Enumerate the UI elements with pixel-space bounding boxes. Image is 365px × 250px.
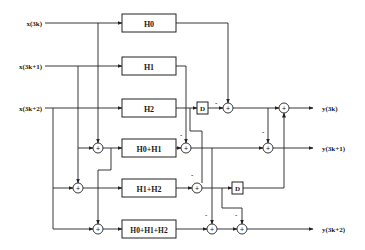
svg-text:+: + (96, 226, 100, 233)
svg-text:-: - (215, 99, 218, 106)
input-label-x3k1: x(3k+1) (19, 63, 43, 71)
svg-text:-: - (205, 211, 208, 218)
filter-h1: H1 (122, 57, 176, 75)
svg-text:-: - (191, 171, 194, 178)
svg-text:H0: H0 (144, 20, 154, 29)
input-label-x3k: x(3k) (26, 20, 42, 28)
svg-text:-: - (180, 131, 183, 138)
svg-text:H2: H2 (144, 105, 154, 114)
filter-h0-plus-h1-plus-h2: H0+H1+H2 (122, 220, 176, 238)
svg-text:+: + (195, 185, 199, 192)
filter-h2: H2 (122, 99, 176, 117)
output-label-y3k1: y(3k+1) (322, 145, 346, 153)
svg-text:D: D (235, 185, 240, 193)
output-label-y3k: y(3k) (322, 105, 338, 113)
svg-text:+: + (282, 105, 286, 112)
svg-text:H1: H1 (144, 63, 154, 72)
svg-text:+: + (226, 105, 230, 112)
filter-h1-plus-h2: H1+H2 (122, 179, 176, 197)
svg-text:+: + (240, 226, 244, 233)
input-label-x3k2: x(3k+2) (19, 105, 43, 113)
svg-text:-: - (262, 128, 265, 135)
wire-h0-to-adderA (176, 23, 228, 103)
filter-h0: H0 (122, 14, 176, 32)
delay-block-1: D (197, 102, 208, 114)
svg-text:+: + (184, 145, 188, 152)
svg-text:H1+H2: H1+H2 (136, 185, 161, 194)
svg-text:+: + (96, 145, 100, 152)
wire-adder1-to-adder3 (98, 148, 111, 224)
svg-text:+: + (76, 185, 80, 192)
delay-block-2: D (232, 182, 243, 194)
svg-text:H0+H1+H2: H0+H1+H2 (130, 226, 168, 235)
fast-fir-block-diagram: x(3k) x(3k+1) x(3k+2) + + + H0 H1 H2 H0+… (0, 0, 365, 250)
output-label-y3k2: y(3k+2) (322, 226, 346, 234)
svg-text:+: + (210, 226, 214, 233)
svg-text:H0+H1: H0+H1 (136, 145, 161, 154)
filter-h0-plus-h1: H0+H1 (122, 139, 176, 157)
svg-text:+: + (266, 145, 270, 152)
svg-text:D: D (200, 105, 205, 113)
svg-text:-: - (235, 211, 238, 218)
